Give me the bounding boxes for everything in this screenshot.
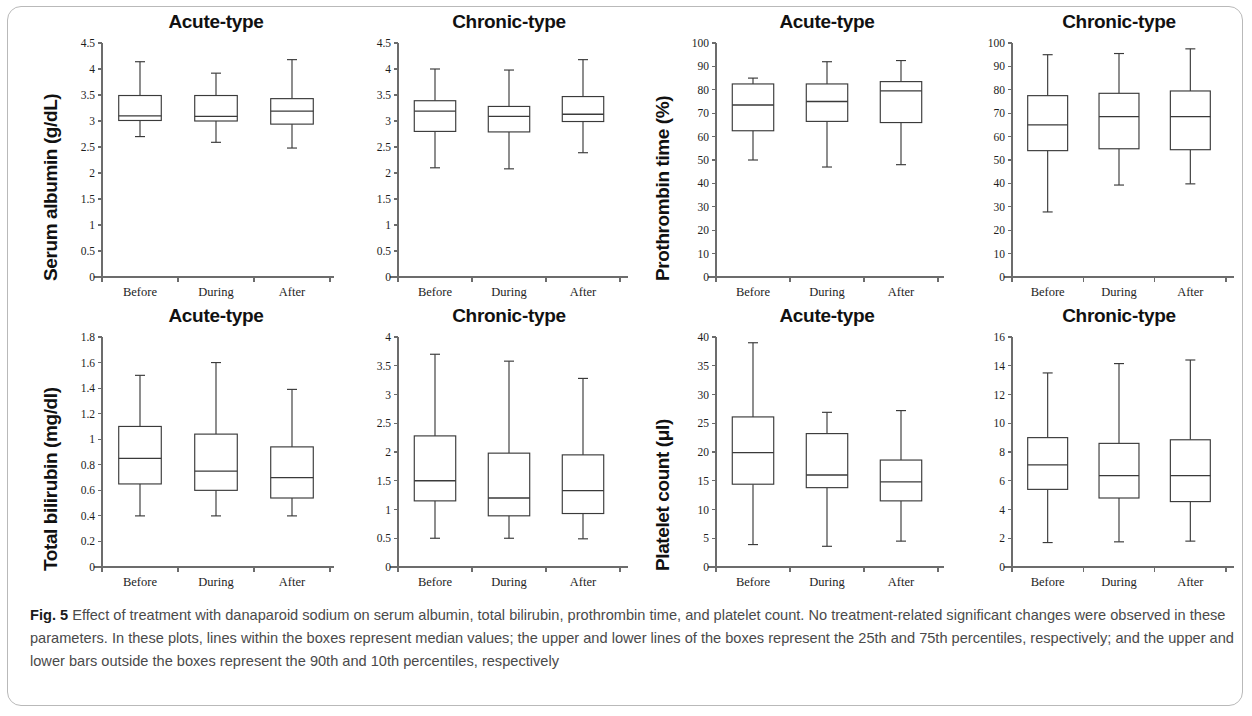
box-iqr xyxy=(488,453,529,516)
x-tick-label: After xyxy=(570,285,597,299)
box-iqr xyxy=(195,434,238,490)
panel-platelet-count-acute: Acute-typePlatelet count (μl)05101520253… xyxy=(634,305,944,597)
y-tick-label: 12 xyxy=(994,389,1006,401)
y-tick-label: 100 xyxy=(988,37,1006,49)
y-tick-label: 10 xyxy=(994,248,1006,260)
boxplot-before xyxy=(1028,373,1068,543)
boxplot-during xyxy=(1099,364,1139,542)
y-tick-label: 1.2 xyxy=(81,408,96,420)
y-tick-label: 2 xyxy=(385,446,391,458)
y-tick-label: 0 xyxy=(385,271,391,283)
box-iqr xyxy=(1099,93,1139,148)
y-tick-label: 30 xyxy=(698,389,710,401)
y-tick-label: 1 xyxy=(89,433,95,445)
y-tick-label: 0 xyxy=(999,561,1005,573)
boxplot-before xyxy=(414,69,455,168)
box-iqr xyxy=(806,434,847,488)
boxplot-during xyxy=(1099,54,1139,186)
y-tick-label: 1.5 xyxy=(377,475,392,487)
boxplot-after xyxy=(880,61,921,165)
x-tick-label: Before xyxy=(418,285,452,299)
y-tick-label: 3 xyxy=(385,115,391,127)
boxplot-during xyxy=(195,363,238,516)
y-tick-label: 25 xyxy=(698,417,710,429)
plot-area-prothrombin-time-chronic: 0102030405060708090100BeforeDuringAfter xyxy=(944,11,1238,303)
panel-serum-albumin-chronic: Chronic-type00.511.522.533.544.5BeforeDu… xyxy=(334,11,634,303)
boxplot-after xyxy=(880,411,921,542)
y-tick-label: 0 xyxy=(999,271,1005,283)
x-tick-label: During xyxy=(1101,285,1137,299)
y-tick-label: 1.5 xyxy=(81,193,96,205)
figure-number: Fig. 5 xyxy=(30,607,68,623)
panel-prothrombin-time-acute: Acute-typeProthrombin time (%)0102030405… xyxy=(634,11,944,303)
plot-area-platelet-count-acute: 0510152025303540BeforeDuringAfter xyxy=(634,305,944,597)
y-tick-label: 0.8 xyxy=(81,459,96,471)
y-tick-label: 20 xyxy=(698,224,710,236)
y-tick-label: 0.5 xyxy=(81,245,96,257)
boxplot-during xyxy=(195,73,238,142)
y-tick-label: 4 xyxy=(385,63,391,75)
box-iqr xyxy=(119,96,162,121)
box-iqr xyxy=(195,96,238,121)
y-tick-label: 80 xyxy=(698,84,710,96)
x-tick-label: Before xyxy=(123,285,157,299)
y-tick-label: 2 xyxy=(89,167,95,179)
y-tick-label: 90 xyxy=(698,60,710,72)
y-tick-label: 30 xyxy=(994,201,1006,213)
y-tick-label: 35 xyxy=(698,360,710,372)
x-tick-label: After xyxy=(1177,285,1204,299)
box-iqr xyxy=(880,82,921,123)
box-iqr xyxy=(562,97,603,122)
box-iqr xyxy=(414,436,455,501)
x-tick-label: After xyxy=(279,285,306,299)
plot-area-total-bilirubin-chronic: 00.511.522.533.54BeforeDuringAfter xyxy=(334,305,634,597)
x-tick-label: After xyxy=(1177,575,1204,589)
caption-text: Effect of treatment with danaparoid sodi… xyxy=(30,607,1234,669)
y-tick-label: 40 xyxy=(994,177,1006,189)
y-tick-label: 0.6 xyxy=(81,484,96,496)
boxplot-after xyxy=(562,60,603,153)
boxplot-after xyxy=(271,389,314,516)
x-tick-label: After xyxy=(888,575,915,589)
y-tick-label: 4 xyxy=(385,331,391,343)
y-tick-label: 50 xyxy=(698,154,710,166)
boxplot-after xyxy=(562,378,603,538)
boxplot-before xyxy=(119,375,162,516)
y-tick-label: 3 xyxy=(385,389,391,401)
y-tick-label: 0 xyxy=(703,271,709,283)
box-iqr xyxy=(1170,440,1210,502)
boxplot-before xyxy=(119,62,162,137)
y-tick-label: 50 xyxy=(994,154,1006,166)
plot-area-total-bilirubin-acute: 00.20.40.60.811.21.41.61.8BeforeDuringAf… xyxy=(22,305,334,597)
box-iqr xyxy=(806,84,847,121)
y-tick-label: 1.5 xyxy=(377,193,392,205)
y-tick-label: 0 xyxy=(385,561,391,573)
boxplot-during xyxy=(488,70,529,169)
y-tick-label: 3.5 xyxy=(377,89,392,101)
y-tick-label: 100 xyxy=(692,37,710,49)
figure-card: Acute-typeSerum albumin (g/dL)00.511.522… xyxy=(7,6,1243,706)
y-tick-label: 1 xyxy=(89,219,95,231)
y-tick-label: 60 xyxy=(994,131,1006,143)
x-tick-label: Before xyxy=(1031,575,1065,589)
box-iqr xyxy=(271,447,314,498)
x-tick-label: Before xyxy=(736,575,770,589)
x-tick-label: After xyxy=(570,575,597,589)
y-tick-label: 2.5 xyxy=(377,141,392,153)
y-tick-label: 14 xyxy=(994,360,1006,372)
y-tick-label: 0 xyxy=(89,271,95,283)
box-iqr xyxy=(1170,91,1210,150)
y-tick-label: 1 xyxy=(385,219,391,231)
y-tick-label: 70 xyxy=(698,107,710,119)
y-tick-label: 2.5 xyxy=(377,417,392,429)
x-tick-label: During xyxy=(809,285,845,299)
x-tick-label: During xyxy=(1101,575,1137,589)
y-tick-label: 20 xyxy=(994,224,1006,236)
y-tick-label: 5 xyxy=(703,532,709,544)
y-tick-label: 4.5 xyxy=(377,37,392,49)
panel-platelet-count-chronic: Chronic-type0246810121416BeforeDuringAft… xyxy=(944,305,1238,597)
x-tick-label: Before xyxy=(123,575,157,589)
x-tick-label: During xyxy=(491,575,527,589)
y-tick-label: 4 xyxy=(999,504,1005,516)
boxplot-after xyxy=(1170,360,1210,541)
